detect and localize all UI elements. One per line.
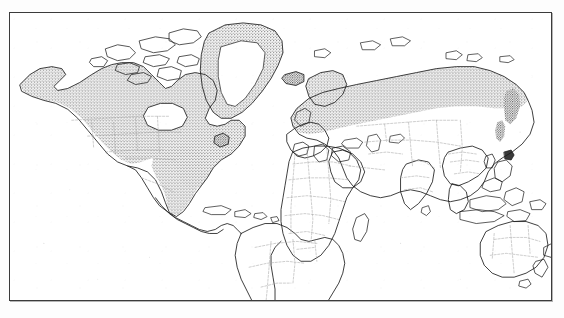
- world-map: [10, 13, 551, 300]
- figure-container: Distribution range Outside range: [0, 0, 564, 318]
- map-frame: [9, 12, 552, 301]
